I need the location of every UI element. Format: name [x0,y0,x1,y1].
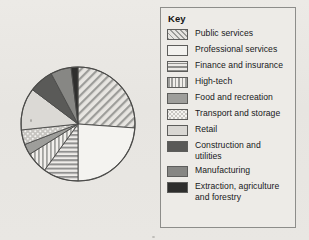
swatch-manufacturing [167,166,188,177]
legend-item-label: Transport and storage [195,108,280,119]
legend-item: Public services [167,28,289,41]
swatch-high-tech [167,77,188,88]
swatch-finance-and-insurance [167,61,188,72]
legend-item: High-tech [167,76,289,89]
swatch-extraction-agriculture-and-forestry [167,182,188,193]
swatch-professional-services [167,45,188,56]
scan-speck [30,119,32,122]
legend-item: Retail [167,124,289,137]
pie-slice-professional-services [78,124,135,181]
scan-speck [152,236,155,238]
legend-item-label: Retail [195,124,217,135]
legend-item-label: Extraction, agricultureand forestry [195,181,279,203]
swatch-food-and-recreation [167,93,188,104]
swatch-retail [167,125,188,136]
legend-item: Construction and utilities [167,140,289,162]
legend-item-label: Finance and insurance [195,60,283,71]
legend-item-label: High-tech [195,76,232,87]
pie-slice-public-services [78,67,135,128]
legend-item: Manufacturing [167,165,289,178]
legend-item-label-line2: and forestry [195,192,279,203]
pie-slice-group [21,67,135,181]
swatch-construction-and-utilities [167,141,188,152]
legend-item: Food and recreation [167,92,289,105]
swatch-transport-and-storage [167,109,188,120]
legend-item: Extraction, agricultureand forestry [167,181,289,203]
legend-item-label: Construction and utilities [195,140,289,162]
pie-chart [14,50,154,210]
legend-item-label: Professional services [195,44,277,55]
legend-item-label: Food and recreation [195,92,273,103]
legend-item: Professional services [167,44,289,57]
legend-item: Transport and storage [167,108,289,121]
legend-item-label: Public services [195,28,253,39]
swatch-public-services [167,29,188,40]
legend-title: Key [168,13,289,25]
legend-box: Key Public servicesProfessional services… [160,7,296,228]
legend-item-label: Manufacturing [195,165,250,176]
pie-chart-svg [14,50,154,210]
legend-item-list: Public servicesProfessional servicesFina… [167,28,289,203]
legend-item: Finance and insurance [167,60,289,73]
